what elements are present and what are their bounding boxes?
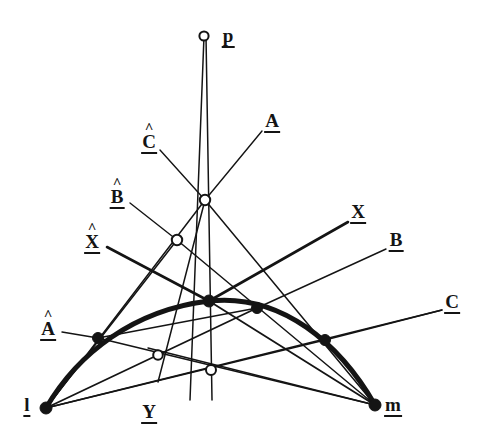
conic-figure: pAC^B^XX^BCA^lYm — [0, 0, 496, 446]
line-l-to-C-label — [46, 310, 442, 408]
label-Y: Y — [141, 402, 157, 424]
label-l: l — [23, 395, 30, 417]
line-B-hat-leader — [130, 203, 177, 240]
point-filled-A-hat-pt — [93, 333, 104, 344]
label-text-Y: Y — [141, 402, 157, 424]
point-open-O2 — [172, 235, 182, 245]
line-Ahat-to-Bhat — [98, 308, 257, 338]
label-text-C: C — [444, 292, 460, 314]
line-Chat-down-line — [158, 200, 205, 382]
label-hat-X_hat: ^ — [84, 221, 100, 236]
point-filled-B-hat-pt — [252, 303, 263, 314]
line-l-to-Bhat-pt — [46, 308, 257, 408]
line-p-vertical — [206, 36, 212, 400]
line-A-leader — [205, 131, 262, 200]
point-filled-l — [40, 402, 52, 414]
point-open-O3 — [153, 350, 163, 360]
label-text-p: p — [222, 26, 235, 48]
point-filled-C-hat-pt — [320, 335, 331, 346]
label-text-X: X — [350, 202, 366, 224]
label-m: m — [384, 395, 402, 417]
label-text-A: A — [264, 111, 280, 133]
construction-lines-layer — [46, 36, 442, 408]
point-open-p — [199, 31, 208, 40]
label-A_hat: A^ — [40, 313, 56, 341]
label-text-X_hat: X^ — [84, 232, 100, 254]
label-C_hat: C^ — [141, 126, 157, 154]
label-X: X — [350, 202, 366, 224]
label-text-l: l — [23, 395, 30, 417]
label-hat-A_hat: ^ — [40, 308, 56, 323]
label-text-B_hat: B^ — [110, 187, 125, 209]
point-filled-m — [369, 399, 381, 411]
point-filled-X-hat-pt — [203, 295, 215, 307]
point-open-O1 — [200, 195, 210, 205]
label-C: C — [444, 292, 460, 314]
label-text-C_hat: C^ — [141, 132, 157, 154]
point-open-Y-pt — [206, 365, 216, 375]
label-text-m: m — [384, 395, 402, 417]
label-p: p — [222, 26, 235, 48]
label-B: B — [389, 230, 404, 252]
label-text-B: B — [389, 230, 404, 252]
figure-canvas — [0, 0, 496, 446]
label-X_hat: X^ — [84, 226, 100, 254]
label-hat-C_hat: ^ — [141, 121, 157, 136]
label-hat-B_hat: ^ — [110, 176, 125, 191]
line-B-leader — [257, 249, 386, 308]
label-text-A_hat: A^ — [40, 319, 56, 341]
line-X-hat-leader — [107, 247, 209, 301]
label-B_hat: B^ — [110, 181, 125, 209]
label-A: A — [264, 111, 280, 133]
